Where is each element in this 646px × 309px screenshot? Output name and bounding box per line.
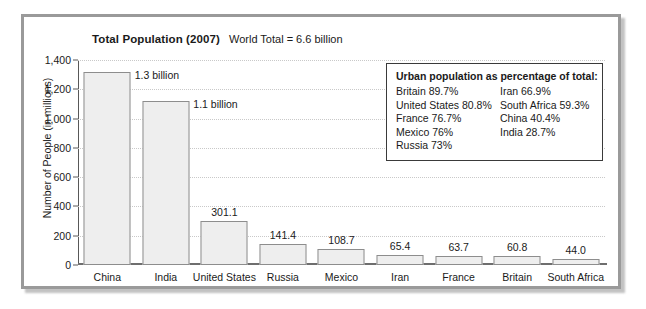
x-axis-category-label: Britain (502, 271, 532, 283)
chart-title: Total Population (2007) (92, 33, 220, 45)
chart-title-row: Total Population (2007)World Total = 6.6… (92, 29, 343, 47)
bar[interactable] (259, 244, 306, 265)
x-axis-category-label: United States (193, 271, 256, 283)
y-axis-tick-label: 200 (53, 230, 71, 242)
bar-value-label: 301.1 (211, 206, 237, 218)
bar[interactable] (435, 256, 482, 265)
bar[interactable] (201, 221, 248, 265)
bar-group: 1.1 billionIndia (137, 60, 196, 265)
y-axis-tick-label: 1,400 (45, 54, 71, 66)
x-axis-category-label: Russia (267, 271, 299, 283)
x-axis-category-label: India (154, 271, 177, 283)
annotation-column-right: Iran 66.9%South Africa 59.3%China 40.4%I… (500, 85, 589, 153)
annotation-item: United States 80.8% (396, 99, 500, 113)
x-axis-category-label: Iran (391, 271, 409, 283)
bar[interactable] (377, 255, 424, 265)
y-axis-title: Number of People (in millions) (41, 48, 53, 248)
bar[interactable] (318, 249, 365, 265)
y-axis-tick-label: 0 (65, 259, 71, 271)
x-axis-category-label: France (442, 271, 475, 283)
annotation-item: Iran 66.9% (500, 85, 589, 99)
bar-value-label: 65.4 (390, 240, 410, 252)
bar-value-label: 141.4 (270, 229, 296, 241)
annotation-item: China 40.4% (500, 112, 589, 126)
chart-subtitle: World Total = 6.6 billion (229, 33, 343, 45)
bar-group: 301.1United States (195, 60, 254, 265)
bar-value-label: 44.0 (565, 244, 585, 256)
annotation-box: Urban population as percentage of total:… (386, 63, 603, 161)
bar[interactable] (142, 101, 189, 265)
annotation-item: France 76.7% (396, 112, 500, 126)
bar-group: 108.7Mexico (312, 60, 371, 265)
bar-value-label: 63.7 (448, 241, 468, 253)
y-axis-tick-label: 800 (53, 142, 71, 154)
bar[interactable] (84, 72, 131, 265)
bar[interactable] (494, 256, 541, 265)
annotation-item: India 28.7% (500, 126, 589, 140)
y-axis-tick-label: 400 (53, 200, 71, 212)
bar-group: 141.4Russia (254, 60, 313, 265)
chart-frame: Total Population (2007)World Total = 6.6… (21, 14, 621, 289)
x-axis-category-label: South Africa (547, 271, 604, 283)
bar-group: 1.3 billionChina (78, 60, 137, 265)
x-axis-category-label: Mexico (325, 271, 358, 283)
annotation-item: Russia 73% (396, 139, 500, 153)
annotation-item: Mexico 76% (396, 126, 500, 140)
y-axis-tick-label: 1,000 (45, 113, 71, 125)
annotation-item: Britain 89.7% (396, 85, 500, 99)
y-axis-tick-label: 1,200 (45, 83, 71, 95)
bar[interactable] (552, 259, 599, 265)
annotation-column-left: Britain 89.7%United States 80.8%France 7… (396, 85, 500, 153)
x-axis-category-label: China (94, 271, 121, 283)
bar-value-label: 60.8 (507, 241, 527, 253)
annotation-heading: Urban population as percentage of total: (396, 70, 593, 82)
annotation-item: South Africa 59.3% (500, 99, 589, 113)
bar-value-label: 108.7 (328, 234, 354, 246)
y-axis-tick-label: 600 (53, 171, 71, 183)
